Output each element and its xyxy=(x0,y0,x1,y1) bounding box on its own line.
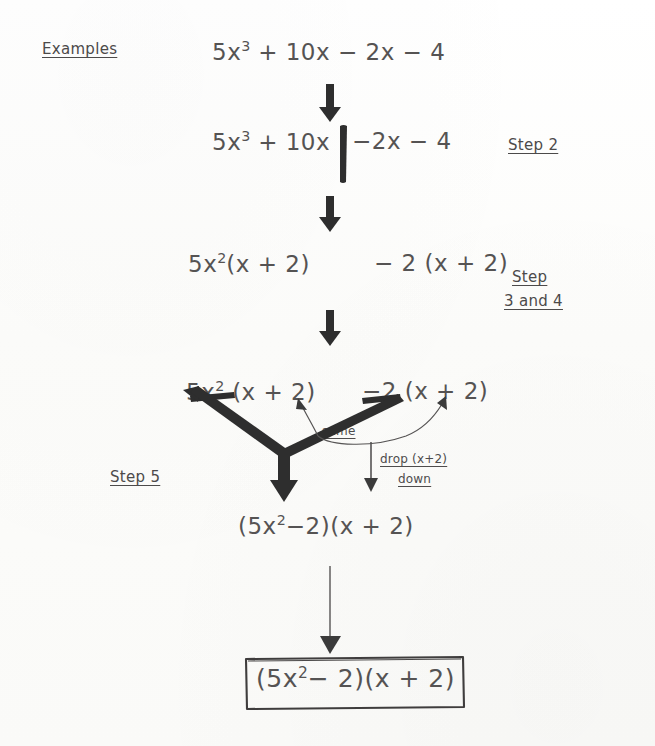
arrow-line1-to-line2 xyxy=(319,84,341,122)
line5-exponent: 2 xyxy=(277,512,286,528)
expression-line-2-left: 5x3 + 10x xyxy=(212,128,330,155)
line4-exponent: 2 xyxy=(215,378,224,394)
same-annotation: same xyxy=(322,424,355,438)
paper-texture xyxy=(0,0,655,746)
drop-annotation-line1: drop (x+2) xyxy=(380,452,447,466)
ink-overlay xyxy=(0,0,655,746)
drop-annotation-line2: down xyxy=(398,472,431,486)
arrow-line3-to-line4 xyxy=(319,310,341,346)
step-5-label: Step 5 xyxy=(110,468,160,486)
step-3-4-label-line2: 3 and 4 xyxy=(504,292,563,310)
line1-rest: + 10x − 2x − 4 xyxy=(250,39,445,65)
expression-line-3-left: 5x2(x + 2) xyxy=(188,250,310,277)
final-exponent: 2 xyxy=(298,664,308,682)
expression-final-answer: (5x2− 2)(x + 2) xyxy=(256,664,455,693)
final-b: − 2)(x + 2) xyxy=(308,664,455,693)
line4-left-rest: (x + 2) xyxy=(224,379,315,405)
line1-exponent: 3 xyxy=(241,38,250,54)
final-a: (5x xyxy=(256,664,298,693)
line5-b: −2)(x + 2) xyxy=(286,513,414,539)
page-title: Examples xyxy=(42,40,117,58)
grouping-divider-bar xyxy=(340,125,347,183)
expression-line-5: (5x2−2)(x + 2) xyxy=(238,512,414,539)
line2-left-rest: + 10x xyxy=(250,129,330,155)
arrow-line2-to-line3 xyxy=(319,196,341,232)
line3-left-rest: (x + 2) xyxy=(226,251,310,277)
expression-line-1: 5x3 + 10x − 2x − 4 xyxy=(212,38,445,65)
line2-coef: 5x xyxy=(212,129,241,155)
expression-line-4-left: 5x2 (x + 2) xyxy=(186,378,316,405)
step-3-4-label-line1: Step xyxy=(512,268,547,286)
line1-coef: 5x xyxy=(212,39,241,65)
expression-line-2-right: −2x − 4 xyxy=(352,128,452,154)
expression-line-4-right: −2 (x + 2) xyxy=(362,378,488,404)
line2-exponent: 3 xyxy=(241,128,250,144)
line5-a: (5x xyxy=(238,513,277,539)
arrow-line5-to-box xyxy=(320,566,341,654)
arrow-drop-down xyxy=(364,442,378,492)
step-2-label: Step 2 xyxy=(508,136,558,154)
line3-coef: 5x xyxy=(188,251,217,277)
line4-coef: 5x xyxy=(186,379,215,405)
line3-exponent: 2 xyxy=(217,250,226,266)
worksheet-page: Examples 5x3 + 10x − 2x − 4 5x3 + 10x −2… xyxy=(0,0,655,746)
arrow-merge-down xyxy=(270,449,298,502)
expression-line-3-right: − 2 (x + 2) xyxy=(374,250,508,276)
